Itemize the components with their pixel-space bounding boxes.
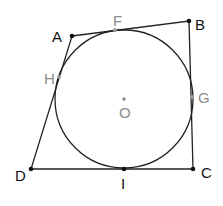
vertex-B	[187, 19, 192, 24]
label-B: B	[195, 16, 205, 33]
label-G: G	[198, 89, 210, 106]
vertex-A	[70, 34, 75, 39]
tangent-point-G	[190, 95, 194, 99]
tangent-point-H	[57, 75, 61, 79]
label-O: O	[119, 104, 131, 121]
label-F: F	[113, 12, 122, 29]
label-C: C	[201, 164, 212, 181]
label-D: D	[15, 167, 26, 184]
vertex-D	[29, 167, 34, 172]
geometry-diagram: A B C D F G H I O	[0, 0, 223, 206]
tangent-point-I	[122, 167, 127, 172]
center-point-O	[122, 97, 126, 101]
label-A: A	[52, 28, 62, 45]
vertex-C	[191, 167, 196, 172]
label-I: I	[121, 175, 125, 192]
label-H: H	[44, 70, 55, 87]
